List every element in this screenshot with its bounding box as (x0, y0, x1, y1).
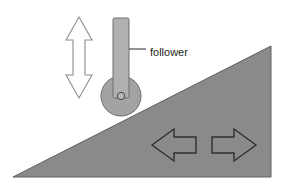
follower-rod (113, 18, 129, 98)
diagram-canvas: follower (0, 0, 281, 195)
mechanism-diagram: follower (0, 0, 281, 195)
follower-wheel-hub (117, 92, 124, 99)
follower-label: follower (150, 46, 188, 58)
